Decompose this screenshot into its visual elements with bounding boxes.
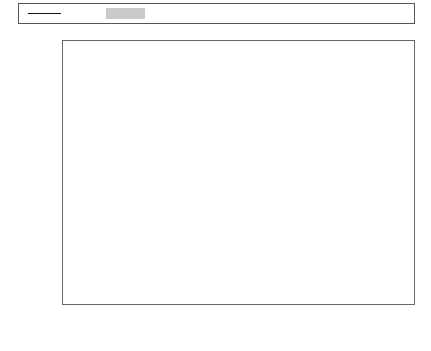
legend-entry-band <box>106 4 156 23</box>
plot-area <box>62 40 415 305</box>
legend-line-swatch-icon <box>28 13 61 14</box>
plot-canvas <box>63 41 414 304</box>
legend-entry-line <box>28 4 70 23</box>
legend <box>18 3 415 24</box>
legend-band-swatch-icon <box>106 8 145 19</box>
figure <box>0 0 431 351</box>
